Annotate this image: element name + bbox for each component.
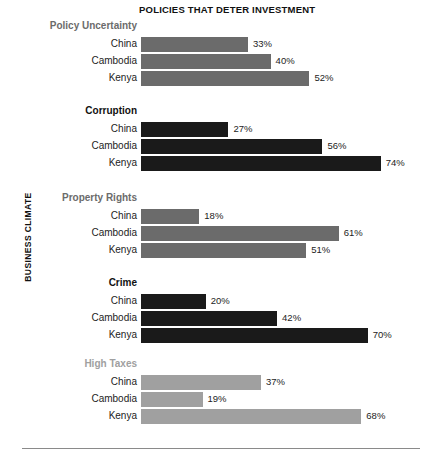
bar xyxy=(141,122,228,137)
bar xyxy=(141,71,309,86)
bar-group: Policy UncertaintyChina33%Cambodia40%Ken… xyxy=(0,20,427,88)
category-label: Cambodia xyxy=(0,312,137,323)
bar-value-label: 33% xyxy=(253,38,272,49)
bar-row: Cambodia56% xyxy=(0,139,427,154)
bar xyxy=(141,54,271,69)
bar-row: Cambodia19% xyxy=(0,392,427,407)
plot-area: Policy UncertaintyChina33%Cambodia40%Ken… xyxy=(0,0,427,446)
bar-value-label: 37% xyxy=(266,376,285,387)
bar xyxy=(141,209,199,224)
bar-value-label: 51% xyxy=(311,244,330,255)
bar-value-label: 18% xyxy=(204,210,223,221)
bar-row: Kenya51% xyxy=(0,243,427,258)
bar-row: China33% xyxy=(0,37,427,52)
group-label: Policy Uncertainty xyxy=(0,20,137,31)
bar-value-label: 68% xyxy=(366,410,385,421)
bar-group: CrimeChina20%Cambodia42%Kenya70% xyxy=(0,277,427,345)
bar-value-label: 42% xyxy=(282,312,301,323)
bar xyxy=(141,409,361,424)
category-label: China xyxy=(0,295,137,306)
bar-group: Property RightsChina18%Cambodia61%Kenya5… xyxy=(0,192,427,260)
bar-row: China27% xyxy=(0,122,427,137)
bar-value-label: 19% xyxy=(208,393,227,404)
bar xyxy=(141,226,339,241)
bar xyxy=(141,37,248,52)
bar xyxy=(141,392,203,407)
bar-value-label: 61% xyxy=(344,227,363,238)
bar-value-label: 27% xyxy=(233,123,252,134)
bottom-divider xyxy=(22,448,420,449)
category-label: China xyxy=(0,210,137,221)
bar xyxy=(141,328,368,343)
bar-row: China37% xyxy=(0,375,427,390)
category-label: Kenya xyxy=(0,244,137,255)
bar-value-label: 20% xyxy=(211,295,230,306)
bar xyxy=(141,243,306,258)
bar-row: Cambodia42% xyxy=(0,311,427,326)
bar-row: Kenya74% xyxy=(0,156,427,171)
category-label: Kenya xyxy=(0,329,137,340)
bar-row: Kenya68% xyxy=(0,409,427,424)
group-label: High Taxes xyxy=(0,358,137,369)
group-label: Corruption xyxy=(0,105,137,116)
category-label: Kenya xyxy=(0,410,137,421)
category-label: China xyxy=(0,38,137,49)
bar-value-label: 56% xyxy=(327,140,346,151)
bar-group: High TaxesChina37%Cambodia19%Kenya68% xyxy=(0,358,427,426)
bar xyxy=(141,311,277,326)
bar xyxy=(141,375,261,390)
category-label: Cambodia xyxy=(0,227,137,238)
bar xyxy=(141,294,206,309)
category-label: China xyxy=(0,376,137,387)
category-label: Cambodia xyxy=(0,393,137,404)
category-label: Cambodia xyxy=(0,55,137,66)
bar-group: CorruptionChina27%Cambodia56%Kenya74% xyxy=(0,105,427,173)
bar-row: Kenya70% xyxy=(0,328,427,343)
bar-row: Kenya52% xyxy=(0,71,427,86)
category-label: Cambodia xyxy=(0,140,137,151)
bar xyxy=(141,156,381,171)
bar-chart: POLICIES THAT DETER INVESTMENT BUSINESS … xyxy=(0,0,427,466)
bar-value-label: 40% xyxy=(276,55,295,66)
group-label: Property Rights xyxy=(0,192,137,203)
bar-row: Cambodia40% xyxy=(0,54,427,69)
category-label: China xyxy=(0,123,137,134)
bar-row: China20% xyxy=(0,294,427,309)
bar-value-label: 70% xyxy=(373,329,392,340)
bar-value-label: 74% xyxy=(386,157,405,168)
bar-row: Cambodia61% xyxy=(0,226,427,241)
bar-value-label: 52% xyxy=(314,72,333,83)
bar-row: China18% xyxy=(0,209,427,224)
bar xyxy=(141,139,322,154)
category-label: Kenya xyxy=(0,157,137,168)
group-label: Crime xyxy=(0,277,137,288)
category-label: Kenya xyxy=(0,72,137,83)
